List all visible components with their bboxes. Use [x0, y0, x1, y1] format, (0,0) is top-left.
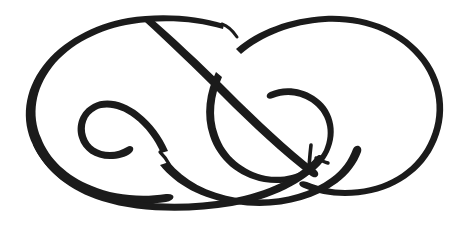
- left-inner-spiral: [78, 101, 168, 159]
- flourish-drawing: Calligraphic Flourish Ornament: [0, 0, 471, 235]
- artwork-canvas: Calligraphic Flourish Ornament: [0, 0, 471, 235]
- diagonal-crossbar: [145, 17, 318, 177]
- right-outer-loop: [236, 16, 443, 196]
- terminal-tick: [309, 145, 311, 172]
